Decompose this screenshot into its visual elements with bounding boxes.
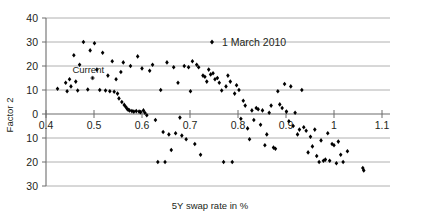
data-point: [159, 88, 163, 93]
annotation-current-label: Current: [72, 64, 104, 75]
data-point: [230, 160, 234, 165]
data-point: [335, 161, 339, 166]
data-point: [222, 160, 226, 165]
data-point: [246, 126, 250, 131]
data-point: [298, 127, 302, 132]
data-point: [72, 53, 76, 58]
data-point: [309, 135, 313, 140]
data-point: [207, 67, 211, 72]
data-point: [98, 88, 102, 93]
data-point: [250, 108, 254, 113]
data-point: [161, 130, 165, 135]
data-point: [167, 132, 171, 137]
data-point: [184, 137, 188, 142]
y-tick-labels-group: 403020100102030: [26, 12, 38, 192]
data-point: [252, 118, 256, 123]
data-point: [74, 79, 78, 84]
data-point: [302, 125, 306, 130]
data-point: [296, 132, 300, 137]
x-tick-label: 0.8: [231, 119, 246, 131]
data-point: [129, 64, 133, 69]
data-point: [174, 131, 178, 136]
data-point: [259, 123, 263, 128]
data-point: [88, 48, 92, 53]
data-point: [289, 84, 293, 89]
data-point: [315, 154, 319, 159]
data-point: [64, 81, 68, 86]
y-tick-label: 20: [26, 156, 38, 168]
annotations-group: Current: [72, 64, 104, 80]
data-point: [148, 69, 152, 74]
data-point: [120, 100, 124, 105]
data-point: [165, 60, 169, 65]
legend-group: 1 March 2010: [210, 36, 286, 48]
data-point: [205, 79, 209, 84]
data-point: [108, 89, 112, 94]
data-point: [110, 59, 114, 64]
data-point: [319, 138, 323, 143]
data-point: [121, 60, 125, 65]
data-point: [237, 88, 241, 93]
y-tick-label: 40: [26, 12, 38, 24]
data-point: [86, 87, 90, 92]
y-tick-label: 10: [26, 132, 38, 144]
data-point: [106, 73, 110, 78]
axis-lines-group: [46, 18, 390, 186]
data-point: [283, 82, 287, 87]
gridlines-group: [46, 18, 390, 186]
data-point: [241, 99, 245, 104]
data-point: [328, 159, 332, 164]
x-tick-label: 0.6: [135, 119, 150, 131]
x-tick-label: 0.7: [183, 119, 198, 131]
data-point: [304, 129, 308, 134]
data-point: [182, 64, 186, 69]
data-point: [93, 41, 97, 46]
data-point: [337, 139, 341, 144]
data-point: [140, 66, 144, 71]
data-point: [56, 87, 60, 92]
data-point: [269, 103, 273, 108]
data-point: [180, 133, 184, 138]
y-tick-label: 30: [26, 36, 38, 48]
x-tick-label: 1: [331, 119, 337, 131]
y-tick-label: 0: [32, 108, 38, 120]
data-point: [187, 65, 191, 70]
data-point: [169, 148, 173, 153]
data-point: [193, 142, 197, 147]
data-point: [69, 84, 73, 89]
data-point: [278, 102, 282, 107]
data-point: [116, 91, 120, 96]
data-point: [101, 51, 105, 56]
data-point: [226, 73, 230, 78]
data-point: [76, 88, 80, 93]
x-tick-label: 0.9: [279, 119, 294, 131]
data-point: [151, 63, 155, 68]
data-point: [156, 160, 160, 165]
chart-canvas: 403020100102030 0.40.50.60.70.80.911.1 C…: [0, 0, 421, 222]
data-point: [136, 54, 140, 59]
data-point: [248, 137, 252, 142]
data-point: [191, 59, 195, 64]
data-points-group: [56, 40, 366, 173]
data-point: [265, 132, 269, 137]
legend-label: 1 March 2010: [222, 36, 286, 48]
data-point: [280, 106, 284, 111]
data-point: [154, 118, 158, 123]
data-point: [311, 144, 315, 149]
x-tick-label: 1.1: [375, 119, 390, 131]
data-point: [313, 127, 317, 132]
data-point: [341, 160, 345, 165]
data-point: [217, 81, 221, 86]
data-point: [233, 91, 237, 96]
data-point: [243, 103, 247, 108]
data-point: [172, 65, 176, 70]
data-point: [68, 77, 72, 82]
data-point: [224, 84, 228, 89]
y-tick-label: 30: [26, 180, 38, 192]
y-tick-label: 20: [26, 60, 38, 72]
data-point: [134, 109, 138, 114]
data-point: [261, 108, 265, 113]
data-point: [235, 83, 239, 88]
data-point: [176, 81, 180, 86]
data-point: [189, 89, 193, 94]
